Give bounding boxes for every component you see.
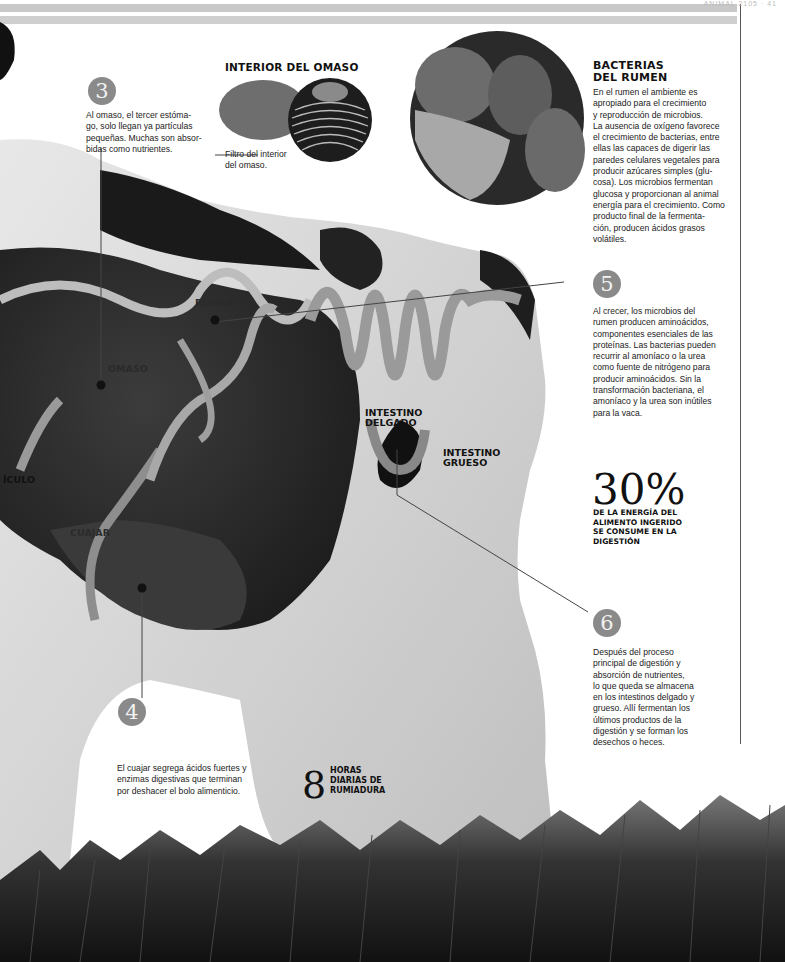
rumination-stat-value: 8	[302, 765, 326, 805]
organ-label-intestino-grueso: INTESTINO GRUESO	[443, 448, 500, 468]
step-5-text: Al crecer, los microbios del rumen produ…	[593, 306, 738, 419]
organ-label-reticulo: ÍCULO	[3, 475, 35, 485]
energy-stat-value: 30%	[592, 470, 685, 510]
step-3-badge: 3	[88, 77, 116, 105]
step-6-badge: 6	[593, 609, 621, 637]
page-header-label: ANIMAL 2105 · 41	[704, 0, 777, 7]
organ-label-rumen: RUMEN	[195, 298, 234, 308]
bacteria-inset-text: En el rumen el ambiente es apropiado par…	[593, 87, 738, 245]
bacteria-inset-title: BACTERIAS DEL RUMEN	[593, 60, 667, 83]
step-6-text: Después del proceso principal de digesti…	[593, 647, 738, 749]
step-4-badge: 4	[118, 698, 146, 726]
energy-stat-caption: DE LA ENERGÍA DEL ALIMENTO INGERIDO SE C…	[593, 508, 733, 546]
organ-label-cuajar: CUAJAR	[70, 528, 110, 538]
omaso-inset-title: INTERIOR DEL OMASO	[225, 62, 359, 73]
rumination-stat-caption: HORAS DIARIAS DE RUMIADURA	[330, 766, 420, 796]
omaso-inset-caption: Filtro del interior del omaso.	[225, 149, 335, 172]
step-3-text: Al omaso, el tercer estóma- go, solo lle…	[86, 110, 216, 155]
organ-label-intestino-delgado: INTESTINO DELGADO	[365, 408, 422, 428]
organ-label-omaso: OMASO	[108, 364, 148, 374]
step-5-badge: 5	[593, 270, 621, 298]
step-4-text: El cuajar segrega ácidos fuertes y enzim…	[117, 763, 277, 797]
